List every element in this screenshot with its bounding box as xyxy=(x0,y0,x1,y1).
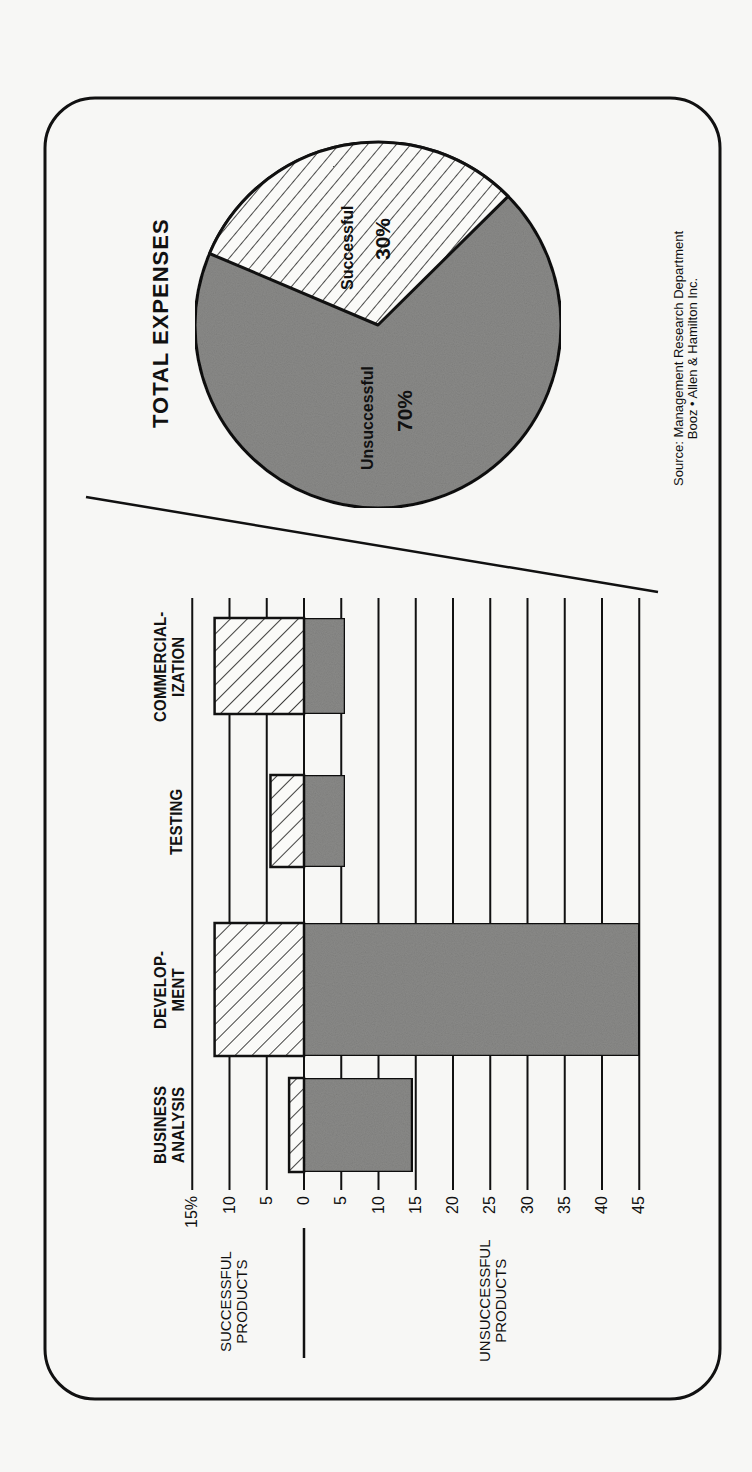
pie-label-unsuccessful: Unsuccessful xyxy=(358,366,378,470)
category-label-line: COMMERCIAL- xyxy=(151,611,169,722)
pie-pct-unsuccessful: 70% xyxy=(394,390,415,432)
tick-label: 40 xyxy=(594,1196,610,1214)
tick-label: 10 xyxy=(222,1196,238,1214)
source-line1: Source: Management Research Department xyxy=(672,231,686,486)
source-line2: Booz • Allen & Hamilton Inc. xyxy=(686,231,700,486)
tick-label: 15 xyxy=(408,1196,424,1214)
bar-unsuccessful xyxy=(304,775,345,867)
category-label: DEVELOP-MENT xyxy=(151,951,188,1029)
successful-label-line2: PRODUCTS xyxy=(234,1251,250,1352)
bar-unsuccessful xyxy=(304,618,345,714)
bar-unsuccessful xyxy=(304,1078,412,1172)
successful-products-label: SUCCESSFUL PRODUCTS xyxy=(218,1251,250,1352)
successful-label-line1: SUCCESSFUL xyxy=(218,1251,234,1352)
bar-successful xyxy=(270,775,304,867)
unsuccessful-label-line2: PRODUCTS xyxy=(493,1239,509,1362)
pie-title: TOTAL EXPENSES xyxy=(150,218,172,428)
chart-figure: BUSINESSANALYSISDEVELOP-MENTTESTINGCOMME… xyxy=(0,0,752,1472)
tick-label: 35 xyxy=(557,1196,573,1214)
tick-label: 5 xyxy=(259,1196,275,1205)
category-label: TESTING xyxy=(167,789,185,855)
pie-pct-successful: 30% xyxy=(372,218,393,260)
category-label: COMMERCIAL-IZATION xyxy=(151,611,188,722)
bar-successful xyxy=(289,1078,304,1172)
tick-label: 0 xyxy=(296,1196,312,1205)
unsuccessful-products-label: UNSUCCESSFUL PRODUCTS xyxy=(477,1239,509,1362)
category-label-line: BUSINESS xyxy=(151,1086,169,1164)
pie-label-successful: Successful xyxy=(338,206,358,290)
category-label-line: ANALYSIS xyxy=(169,1086,187,1164)
divider-line xyxy=(86,497,658,592)
tick-label: 15% xyxy=(184,1196,200,1228)
tick-label: 20 xyxy=(445,1196,461,1214)
tick-label: 25 xyxy=(482,1196,498,1214)
category-label-line: IZATION xyxy=(169,611,187,722)
unsuccessful-label-line1: UNSUCCESSFUL xyxy=(477,1239,493,1362)
category-label: BUSINESSANALYSIS xyxy=(151,1086,188,1164)
tick-label: 10 xyxy=(371,1196,387,1214)
pie-chart xyxy=(195,142,561,508)
bar-successful xyxy=(215,618,304,714)
bar-unsuccessful xyxy=(304,923,639,1056)
tick-label: 30 xyxy=(520,1196,536,1214)
category-label-line: MENT xyxy=(169,951,187,1029)
tick-label: 45 xyxy=(631,1196,647,1214)
pie-unsuccessful-name: Unsuccessful xyxy=(358,366,378,470)
source-note: Source: Management Research Department B… xyxy=(672,231,700,486)
pie-successful-name: Successful xyxy=(338,206,358,290)
tick-label: 5 xyxy=(333,1196,349,1205)
category-label-line: DEVELOP- xyxy=(151,951,169,1029)
bar-successful xyxy=(215,923,304,1056)
bars xyxy=(215,618,640,1172)
category-label-line: TESTING xyxy=(167,789,185,855)
